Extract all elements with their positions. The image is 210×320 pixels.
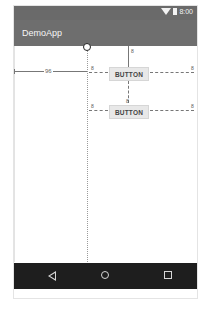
button2-left-constraint — [89, 104, 108, 111]
vertical-guideline[interactable] — [87, 46, 88, 262]
button-2[interactable]: BUTTON — [109, 105, 149, 119]
status-time: 8:00 — [179, 8, 193, 15]
button2-margin-right: 8 — [191, 103, 194, 109]
button1-left-constraint — [89, 66, 108, 73]
guideline-handle[interactable] — [83, 43, 91, 51]
button1-right-constraint — [150, 66, 194, 73]
navigation-bar — [14, 263, 197, 289]
button2-margin-top: 8 — [126, 98, 129, 104]
device-preview: 8:00 DemoApp 96 8 8 BUTTON 8 8 8 BUTTON … — [13, 5, 198, 299]
back-icon[interactable] — [48, 271, 56, 281]
home-icon[interactable] — [101, 271, 109, 279]
app-title: DemoApp — [22, 28, 62, 38]
button1-margin-right: 8 — [191, 65, 194, 71]
button-1[interactable]: BUTTON — [109, 67, 149, 81]
status-bar: 8:00 — [14, 6, 197, 20]
guideline-offset-label: 96 — [44, 68, 53, 74]
button1-margin-top: 8 — [131, 48, 134, 54]
wifi-icon — [161, 8, 171, 15]
button1-top-constraint — [128, 46, 129, 67]
app-bar: DemoApp — [14, 20, 197, 46]
parent-left-edge — [14, 46, 15, 262]
recents-icon[interactable] — [164, 271, 172, 279]
battery-icon — [173, 8, 177, 15]
button2-right-constraint — [150, 104, 194, 111]
